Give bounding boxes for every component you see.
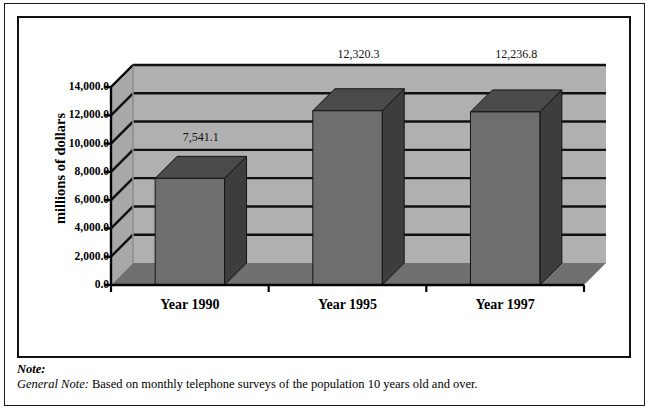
general-note-label: General Note: <box>17 377 89 391</box>
bar-2 <box>470 90 561 285</box>
y-tick-label-0: 0.0 <box>95 279 109 291</box>
bar-front-0 <box>155 178 224 285</box>
x-tick-label-2: Year 1997 <box>435 297 575 313</box>
x-tick-label-0: Year 1990 <box>120 297 260 313</box>
data-label-1: 12,320.3 <box>299 47 419 62</box>
y-axis-title: millions of dollars <box>52 94 69 244</box>
bar-side-1 <box>382 89 404 285</box>
y-tick-label-3: 6,000.0 <box>75 194 110 206</box>
bar-0 <box>155 156 246 285</box>
y-tick-label-6: 12,000.0 <box>69 109 109 121</box>
bar-front-2 <box>470 112 539 285</box>
chart-border: 0.02,000.04,000.06,000.08,000.010,000.01… <box>17 16 631 358</box>
note-label: Note: <box>17 362 45 376</box>
y-tick-label-7: 14,000.0 <box>69 81 109 93</box>
x-tick-label-1: Year 1995 <box>278 297 418 313</box>
bar-1 <box>313 89 404 285</box>
bar-front-1 <box>313 111 382 285</box>
general-note-text: Based on monthly telephone surveys of th… <box>92 377 478 391</box>
general-note-line: General Note: Based on monthly telephone… <box>17 377 627 392</box>
y-axis-title-wrap: millions of dollars <box>41 18 65 360</box>
y-tick-label-2: 4,000.0 <box>75 222 110 234</box>
chart-page: 0.02,000.04,000.06,000.08,000.010,000.01… <box>0 0 653 412</box>
y-tick-label-1: 2,000.0 <box>75 251 110 263</box>
y-tick-label-5: 10,000.0 <box>69 138 109 150</box>
data-label-0: 7,541.1 <box>141 130 261 145</box>
note-line: Note: <box>17 362 627 377</box>
footnotes: Note: General Note: Based on monthly tel… <box>17 362 627 392</box>
y-tick-label-4: 8,000.0 <box>75 166 110 178</box>
bar-side-2 <box>540 90 562 285</box>
data-label-2: 12,236.8 <box>456 47 576 62</box>
